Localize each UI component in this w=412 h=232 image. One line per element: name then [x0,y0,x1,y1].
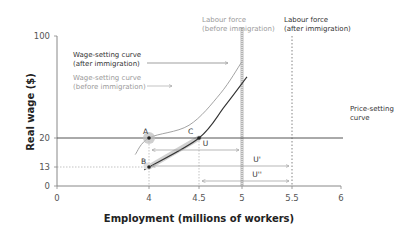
point-a [147,136,151,140]
x-tick-label: 0 [54,193,59,203]
x-tick-label: 5.5 [285,193,299,203]
point-label-c: C [188,127,193,136]
x-tick-label: 5 [239,193,244,203]
y-axis-title: Real wage ($) [25,73,36,151]
unemployment-label-1: U [203,139,209,148]
unemployment-label-2: U' [253,155,261,164]
lf-after-label-1: Labour force [284,16,328,24]
wage-setting-curve-after [145,77,247,170]
y-tick-label: 20 [39,133,50,143]
point-b [147,165,151,169]
ws-before-label-2: (before immigration) [73,83,146,91]
x-axis-title: Employment (millions of workers) [104,213,294,224]
lf-after-label-2: (after immigration) [284,25,351,33]
lf-before-label-2: (before immigration) [202,25,275,33]
point-label-b: B [141,157,146,166]
ws-after-label-2: (after immigration) [73,60,140,68]
point-label-a: A [143,127,149,136]
y-tick-label: 0 [45,181,50,191]
point-c [197,136,201,140]
ws-before-label-1: Wage-setting curve [73,74,141,82]
x-tick-label: 4.5 [192,193,206,203]
x-tick-label: 6 [338,193,343,203]
ws-after-label-1: Wage-setting curve [73,51,141,59]
price-setting-label-2: curve [350,114,370,122]
price-setting-label-1: Price-setting [350,105,394,113]
chart: 044.555.5601320100 UU'U'' ABC Real wage … [0,0,412,232]
lf-before-label-1: Labour force [202,16,246,24]
y-tick-label: 13 [39,162,50,172]
unemployment-label-3: U'' [252,170,262,179]
y-tick-label: 100 [34,31,50,41]
x-tick-label: 4 [146,193,151,203]
